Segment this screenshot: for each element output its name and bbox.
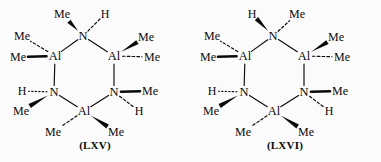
- structure-lxv-caption: (LXV): [0, 139, 190, 151]
- ring-bond-n_top-al_right_top: [278, 40, 297, 52]
- bond-al_right_top-me_upper_right-wedge: [311, 40, 328, 52]
- ring-bond-n_right_bottom-al_bottom: [91, 95, 109, 106]
- ring-atom-al_left_top: Al: [239, 50, 252, 62]
- substituent-me_bottom_right: Me: [108, 126, 124, 138]
- bond-al_right_top-me_right-dash: [312, 56, 332, 57]
- bond-al_bottom-me_bottom_left-dash: [251, 116, 267, 127]
- substituent-me_upper_left: Me: [204, 30, 220, 42]
- substituent-me_upper_left: Me: [14, 30, 30, 42]
- substituent-me_upper_right: Me: [328, 31, 344, 43]
- ring-bond-al_left_top-n_top: [62, 40, 78, 52]
- substituent-me_upper_right: Me: [138, 31, 154, 43]
- bond-al_right_top-me_upper_right-wedge: [121, 40, 138, 52]
- ring-bond-n_top-al_right_top: [88, 40, 107, 52]
- ring-atom-n_right_bottom: N: [109, 86, 118, 98]
- substituent-me_bottom_right: Me: [298, 126, 314, 138]
- bond-al_left_top-me_left-bold: [218, 56, 237, 57]
- bond-al_right_top-me_right-dash: [122, 56, 142, 57]
- bond-n_right_bottom-me_mid_right-bold: [121, 91, 140, 92]
- structure-lxvi-caption: (LXVI): [190, 139, 380, 151]
- substituent-h_top_left: H: [248, 8, 257, 20]
- ring-atom-n_top: N: [78, 30, 87, 42]
- substituent-me_right: Me: [334, 51, 350, 63]
- bond-n_top-h_top_right-dash: [88, 19, 100, 31]
- bond-n_left_bottom-me_lower_left-wedge: [29, 95, 48, 108]
- substituent-h_top_right: H: [101, 8, 110, 20]
- structure-lxv-bonds: [0, 0, 190, 162]
- bond-n_top-me_top_left-wedge: [67, 20, 78, 31]
- substituent-me_mid_right: Me: [332, 85, 348, 97]
- bond-n_right_bottom-h_lower_right-dash: [310, 96, 324, 107]
- bond-n_left_bottom-h_mid_left-dot: [218, 91, 237, 92]
- ring-atom-n_left_bottom: N: [49, 86, 58, 98]
- ring-atom-n_left_bottom: N: [239, 86, 248, 98]
- substituent-me_lower_left: Me: [13, 105, 29, 117]
- substituent-h_mid_left: H: [18, 85, 27, 97]
- bond-n_left_bottom-h_mid_left-dot: [28, 91, 47, 92]
- bond-al_left_top-me_upper_left-dash: [221, 41, 238, 51]
- structure-lxvi-bonds: [190, 0, 380, 162]
- bond-n_left_bottom-me_lower_left-wedge: [219, 95, 238, 108]
- substituent-me_mid_right: Me: [142, 85, 158, 97]
- substituent-me_left: Me: [10, 51, 26, 63]
- ring-bond-n_right_bottom-al_bottom: [281, 95, 299, 106]
- substituent-me_lower_left: Me: [203, 105, 219, 117]
- ring-bond-n_left_bottom-al_left_top: [244, 64, 245, 86]
- ring-atom-al_bottom: Al: [268, 105, 281, 117]
- ring-atom-al_right_top: Al: [108, 50, 121, 62]
- substituent-me_top_right: Me: [289, 8, 305, 20]
- ring-atom-al_right_top: Al: [298, 50, 311, 62]
- ring-bond-n_left_bottom-al_left_top: [54, 64, 55, 86]
- bond-al_left_top-me_left-bold: [28, 56, 47, 57]
- ring-atom-n_right_bottom: N: [299, 86, 308, 98]
- bond-al_bottom-me_bottom_right-wedge: [281, 116, 299, 129]
- ring-atom-n_top: N: [268, 30, 277, 42]
- substituent-me_right: Me: [144, 51, 160, 63]
- bond-n_right_bottom-h_lower_right-dash: [120, 96, 134, 107]
- bond-al_left_top-me_upper_left-dash: [31, 41, 48, 51]
- ring-bond-al_bottom-n_left_bottom: [59, 95, 77, 106]
- substituent-me_left: Me: [200, 51, 216, 63]
- bond-n_right_bottom-me_mid_right-bold: [311, 91, 330, 92]
- substituent-me_bottom_left: Me: [235, 126, 251, 138]
- structure-lxvi: (LXVI) NAlNAlNAlHMeMeMeMeMeHMeMeHMeMe: [190, 0, 380, 162]
- bond-al_bottom-me_bottom_right-wedge: [91, 116, 109, 129]
- ring-atom-al_left_top: Al: [49, 50, 62, 62]
- substituent-h_lower_right: H: [135, 105, 144, 117]
- substituent-me_top_left: Me: [54, 8, 70, 20]
- substituent-me_bottom_left: Me: [45, 126, 61, 138]
- ring-bond-al_bottom-n_left_bottom: [249, 95, 267, 106]
- substituent-h_lower_right: H: [325, 105, 334, 117]
- ring-atom-al_bottom: Al: [78, 105, 91, 117]
- structure-lxv: (LXV) NAlNAlNAlMeHMeMeMeMeHMeMeHMeMe: [0, 0, 190, 162]
- substituent-h_mid_left: H: [208, 85, 217, 97]
- bond-al_bottom-me_bottom_left-dash: [61, 116, 77, 127]
- figure-canvas: (LXV) NAlNAlNAlMeHMeMeMeMeHMeMeHMeMe (LX…: [0, 0, 381, 162]
- ring-bond-al_left_top-n_top: [252, 40, 268, 52]
- bond-n_top-me_top_right-dash: [278, 21, 289, 32]
- bond-n_top-h_top_left-wedge: [255, 17, 268, 31]
